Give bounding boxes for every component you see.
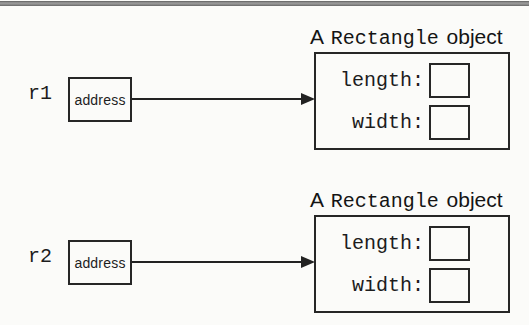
reference-variable-label: r2 bbox=[28, 245, 52, 269]
pointer-arrow bbox=[132, 98, 302, 100]
reference-variable-label: r1 bbox=[28, 82, 52, 106]
object-title-class-name: Rectangle bbox=[331, 27, 439, 50]
field-label: width: bbox=[352, 111, 424, 134]
object-title-article: A bbox=[310, 25, 323, 48]
object-reference-diagram: r1 address A Rectangle object length: wi… bbox=[0, 0, 529, 325]
object-title-noun: object bbox=[447, 188, 503, 211]
object-title: A Rectangle object bbox=[310, 24, 503, 50]
field-label: width: bbox=[352, 274, 424, 297]
address-box-label: address bbox=[74, 92, 125, 108]
field-label: length: bbox=[340, 69, 424, 92]
object-title: A Rectangle object bbox=[310, 187, 503, 213]
field-row-width: width: bbox=[352, 105, 470, 140]
field-row-width: width: bbox=[352, 268, 470, 303]
arrow-head-icon bbox=[301, 93, 315, 105]
top-rule bbox=[0, 1, 529, 6]
object-title-noun: object bbox=[447, 25, 503, 48]
reference-row-r1: r1 address A Rectangle object length: wi… bbox=[0, 20, 529, 162]
address-box: address bbox=[68, 240, 132, 285]
reference-row-r2: r2 address A Rectangle object length: wi… bbox=[0, 183, 529, 325]
address-box: address bbox=[68, 77, 132, 122]
object-box: length: width: bbox=[314, 52, 510, 150]
address-box-label: address bbox=[74, 255, 125, 271]
arrow-head-icon bbox=[301, 256, 315, 268]
object-title-article: A bbox=[310, 188, 323, 211]
field-value-box bbox=[429, 105, 470, 140]
object-title-class-name: Rectangle bbox=[331, 190, 439, 213]
field-value-box bbox=[429, 268, 470, 303]
field-row-length: length: bbox=[340, 63, 470, 98]
field-label: length: bbox=[340, 232, 424, 255]
object-box: length: width: bbox=[314, 215, 510, 313]
field-row-length: length: bbox=[340, 226, 470, 261]
field-value-box bbox=[429, 226, 470, 261]
field-value-box bbox=[429, 63, 470, 98]
pointer-arrow bbox=[132, 261, 302, 263]
